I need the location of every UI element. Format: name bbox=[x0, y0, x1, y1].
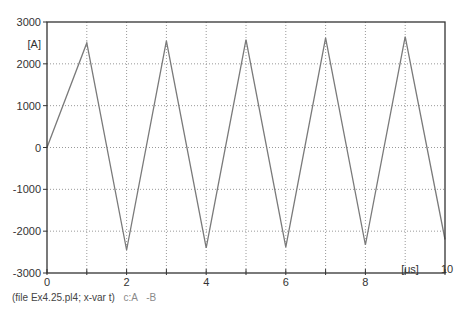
svg-text:0: 0 bbox=[44, 276, 50, 288]
svg-text:10: 10 bbox=[441, 263, 453, 275]
svg-text:0: 0 bbox=[35, 142, 41, 154]
svg-text:-1000: -1000 bbox=[13, 183, 41, 195]
svg-text:2: 2 bbox=[124, 276, 130, 288]
y-axis-unit-label: [A] bbox=[28, 38, 41, 50]
svg-text:8: 8 bbox=[362, 276, 368, 288]
svg-text:6: 6 bbox=[283, 276, 289, 288]
svg-text:4: 4 bbox=[203, 276, 209, 288]
svg-text:3000: 3000 bbox=[17, 16, 41, 28]
svg-text:2000: 2000 bbox=[17, 58, 41, 70]
legend-suffix: -B bbox=[146, 292, 156, 303]
chart-caption: (file Ex4.25.pl4; x-var t) c:A -B bbox=[12, 292, 156, 303]
file-info-text: (file Ex4.25.pl4; x-var t) bbox=[12, 292, 115, 303]
svg-text:-2000: -2000 bbox=[13, 225, 41, 237]
y-axis-ticks: 3000200010000-1000-2000-3000 bbox=[13, 16, 47, 279]
svg-text:-3000: -3000 bbox=[13, 267, 41, 279]
legend-label: c:A bbox=[124, 292, 138, 303]
chart-canvas: 3000200010000-1000-2000-3000 0246810 [A]… bbox=[0, 0, 466, 317]
x-axis-ticks: 0246810 bbox=[44, 263, 453, 288]
svg-text:1000: 1000 bbox=[17, 100, 41, 112]
x-axis-unit-label: [us] bbox=[401, 263, 419, 275]
